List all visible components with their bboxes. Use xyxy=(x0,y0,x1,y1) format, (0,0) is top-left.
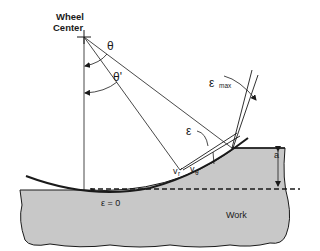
theta-prime-label: θ' xyxy=(113,70,122,84)
wheel-contact-diagram: Wheel Center θ θ' ε max ε v r v θ a ε = … xyxy=(0,0,320,251)
radius-line-theta-prime xyxy=(84,37,180,170)
v-r-subscript: r xyxy=(178,170,181,177)
wheel-center-label-line2: Center xyxy=(53,22,83,33)
work-label: Work xyxy=(226,210,247,220)
epsilon-max-subscript: max xyxy=(219,82,232,89)
depth-label: a xyxy=(274,150,279,160)
epsilon-label: ε xyxy=(186,124,192,138)
epsilon-zero-label: ε = 0 xyxy=(101,198,120,208)
epsilon-max-label: ε xyxy=(209,76,215,90)
wheel-center-label-line1: Wheel xyxy=(56,11,84,22)
tangent-line-exit-2 xyxy=(233,75,258,148)
tangent-line-exit xyxy=(232,70,252,148)
radius-line-theta xyxy=(84,37,232,148)
theta-label: θ xyxy=(107,39,114,53)
epsilon-arc xyxy=(197,131,208,146)
work-piece-region xyxy=(20,148,290,247)
v-theta-subscript: θ xyxy=(195,169,199,176)
